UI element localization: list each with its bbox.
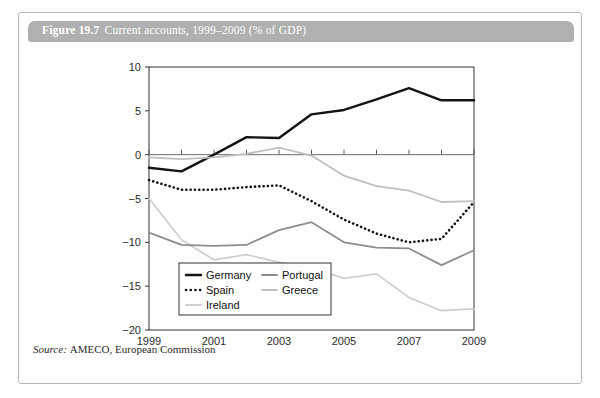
line-chart: −20−15−10−50510199920012003200520072009G… — [19, 13, 583, 385]
y-axis-tick-label: −15 — [122, 280, 141, 292]
y-axis-tick-label: 5 — [135, 105, 141, 117]
legend-label-portugal: Portugal — [282, 269, 323, 281]
source-note: Source:AMECO, European Commission — [33, 343, 216, 355]
series-line-portugal — [149, 222, 474, 265]
y-axis-tick-label: 0 — [135, 149, 141, 161]
y-axis-tick-label: −10 — [122, 236, 141, 248]
figure-card: Figure 19.7Current accounts, 1999–2009 (… — [18, 12, 582, 384]
legend-label-greece: Greece — [282, 284, 318, 296]
legend-label-spain: Spain — [206, 284, 234, 296]
x-axis-tick-label: 2005 — [332, 335, 356, 347]
series-line-greece — [149, 148, 474, 202]
source-value: AMECO, European Commission — [70, 343, 216, 355]
y-axis-tick-label: 10 — [129, 61, 141, 73]
x-axis-tick-label: 2007 — [397, 335, 421, 347]
legend-label-ireland: Ireland — [206, 299, 240, 311]
series-line-spain — [149, 180, 474, 242]
source-label: Source: — [33, 343, 67, 355]
y-axis-tick-label: −5 — [128, 193, 141, 205]
x-axis-tick-label: 2003 — [267, 335, 291, 347]
x-axis-tick-label: 2009 — [462, 335, 486, 347]
chart-plot-area: −20−15−10−50510199920012003200520072009G… — [19, 13, 583, 385]
legend-label-germany: Germany — [206, 269, 252, 281]
